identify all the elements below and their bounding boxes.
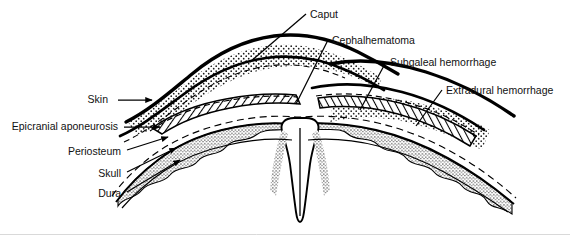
- anatomical-diagram: Skin Epicranial aponeurosis Periosteum S…: [0, 0, 570, 237]
- midline-suture-falx: [270, 118, 330, 222]
- label-cephalhematoma: Cephalhematoma: [332, 35, 415, 46]
- label-periosteum: Periosteum: [40, 146, 121, 157]
- label-dura: Dura: [60, 188, 121, 199]
- diagram-canvas: [0, 0, 570, 237]
- leader-periosteum: [127, 137, 168, 150]
- label-subgaleal-hemorrhage: Subgaleal hemorrhage: [390, 57, 496, 68]
- label-skull: Skull: [60, 168, 121, 179]
- label-epicranial-aponeurosis: Epicranial aponeurosis: [6, 121, 118, 132]
- label-skin: Skin: [60, 94, 108, 105]
- label-caput: Caput: [310, 9, 338, 20]
- label-extradural-hemorrhage: Extradural hemorrhage: [446, 85, 553, 96]
